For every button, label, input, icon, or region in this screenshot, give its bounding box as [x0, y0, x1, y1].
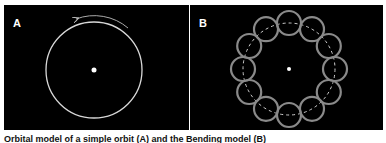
panel-a: A — [4, 5, 189, 130]
center-dot — [92, 68, 97, 73]
rotation-arrow-icon — [76, 16, 128, 28]
center-dot — [287, 67, 291, 71]
epicycle-diagram — [190, 5, 383, 130]
panel-b: B — [190, 5, 383, 130]
orbit-diagram — [4, 5, 189, 130]
figure-caption: Orbital model of a simple orbit (A) and … — [4, 133, 266, 143]
